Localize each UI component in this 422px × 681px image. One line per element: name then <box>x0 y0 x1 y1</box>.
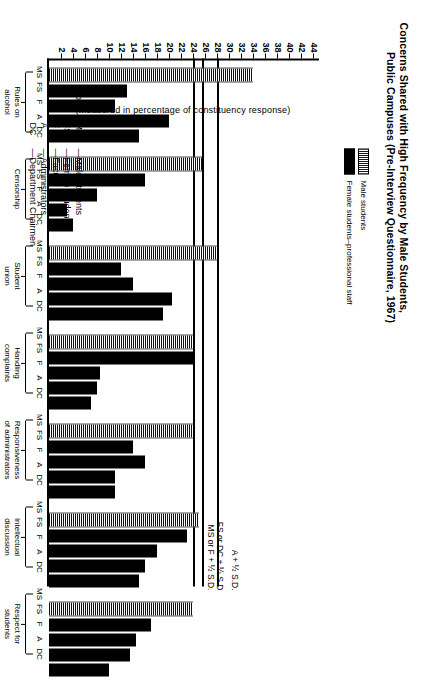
constituency-codes: MSFSFADC <box>35 239 44 312</box>
axis-tick-label: 30 <box>225 32 234 52</box>
category-label-group: MSFSFADCIntellectualdiscussion <box>3 493 44 580</box>
plot-area: (Measured in percentage of constituency … <box>47 58 319 586</box>
group-name-line: alcohol <box>3 65 13 138</box>
code-abbr: A <box>38 122 50 148</box>
axis-tick-label: 34 <box>249 32 258 52</box>
code-key-row: F—Faculty <box>50 88 62 246</box>
bar-a[interactable] <box>49 381 97 394</box>
bar-f[interactable] <box>49 455 145 468</box>
axis-tick-label: 2 <box>57 32 66 52</box>
bar-fs[interactable] <box>49 262 121 275</box>
axis-tick-label: 10 <box>105 32 114 52</box>
code-dash: — <box>40 148 50 157</box>
constituency-code: F <box>35 269 44 282</box>
bar-ms[interactable] <box>49 67 253 82</box>
group-brace <box>26 332 33 393</box>
bar-a[interactable] <box>49 648 130 661</box>
axis-tick <box>73 53 74 58</box>
bar-ms[interactable] <box>49 423 193 438</box>
code-dash: — <box>74 148 84 157</box>
bar-dc[interactable] <box>49 663 109 676</box>
bar-f[interactable] <box>49 277 133 290</box>
bar-groups <box>49 60 319 586</box>
group-brace <box>26 245 33 306</box>
constituency-code: FS <box>35 428 44 441</box>
group-name: Handlingcomplaints <box>3 326 22 399</box>
constituency-code: FS <box>35 254 44 267</box>
group-name-line: complaints <box>3 326 13 399</box>
constituency-codes: MSFSFADC <box>35 326 44 399</box>
constituency-codes: MSFSFADC <box>35 413 44 486</box>
constituency-code: MS <box>35 326 44 339</box>
axis-tick-label: 28 <box>213 32 222 52</box>
bar-ms[interactable] <box>49 245 217 260</box>
group-name-line: students <box>3 587 13 660</box>
axis-tick-label: 6 <box>81 32 90 52</box>
constituency-code: DC <box>35 647 44 660</box>
code-name: Department Chairmen <box>28 157 38 246</box>
bar-ms[interactable] <box>49 512 199 527</box>
constituency-code: A <box>35 545 44 558</box>
group-name: Studentunion <box>3 239 22 312</box>
constituency-code: F <box>35 443 44 456</box>
axis-tick <box>85 53 86 58</box>
bar-fs[interactable] <box>49 440 133 453</box>
group-name-line: discussion <box>3 500 13 573</box>
axis-tick <box>181 53 182 58</box>
code-key-heading: Code: <box>73 88 85 122</box>
constituency-code: FS <box>35 341 44 354</box>
axis-tick-label: 16 <box>141 32 150 52</box>
legend: Male students Female students–profession… <box>342 148 370 304</box>
bar-dc[interactable] <box>49 307 163 320</box>
code-dash: — <box>51 148 61 157</box>
group-name-line: of administrators <box>3 413 13 486</box>
group-name: Responsivenessof administrators <box>3 413 22 486</box>
bar-ms[interactable] <box>49 601 193 616</box>
bar-a[interactable] <box>49 470 115 483</box>
bar-fs[interactable] <box>49 618 151 631</box>
bar-f[interactable] <box>49 633 136 646</box>
axis-tick <box>265 53 266 58</box>
constituency-code: FS <box>35 515 44 528</box>
axis-tick-label: 8 <box>93 32 102 52</box>
bar-f[interactable] <box>49 544 157 557</box>
code-abbr: DC <box>27 122 39 148</box>
bar-dc[interactable] <box>49 574 139 587</box>
axis-tick <box>253 53 254 58</box>
group-name: Respect forstudents <box>3 587 22 660</box>
axis-tick <box>169 53 170 58</box>
bar-dc[interactable] <box>49 485 115 498</box>
title-line-2: Public Campuses (Pre-Interview Questionn… <box>384 22 397 352</box>
axis-tick-label: 44 <box>309 32 318 52</box>
code-key-row: DC—Department Chairmen <box>27 88 39 246</box>
bar-group <box>49 594 319 681</box>
code-dash: — <box>63 148 73 157</box>
bar-a[interactable] <box>49 559 145 572</box>
bar-a[interactable] <box>49 292 172 305</box>
bar-fs[interactable] <box>49 529 187 542</box>
group-name: Intellectualdiscussion <box>3 500 22 573</box>
group-name-line: union <box>3 239 13 312</box>
axis-tick <box>193 53 194 58</box>
axis-tick <box>229 53 230 58</box>
code-name: Administrators <box>40 157 50 215</box>
code-dash: — <box>28 148 38 157</box>
axis-tick <box>301 53 302 58</box>
title-line-1: Concerns Shared with High Frequency by M… <box>398 22 410 313</box>
constituency-code: F <box>35 356 44 369</box>
constituency-code: DC <box>35 473 44 486</box>
code-abbr: F <box>50 122 62 148</box>
bar-dc[interactable] <box>49 396 91 409</box>
constituency-code: DC <box>35 386 44 399</box>
code-abbr: FS <box>61 122 73 148</box>
bar-group <box>49 327 319 416</box>
category-label-group: MSFSFADCResponsivenessof administrators <box>3 406 44 493</box>
constituency-code: FS <box>35 602 44 615</box>
bar-ms[interactable] <box>49 334 193 349</box>
bar-group <box>49 416 319 505</box>
bar-f[interactable] <box>49 366 100 379</box>
axis-tick-label: 24 <box>189 32 198 52</box>
code-key-row: A—Administrators <box>38 88 50 246</box>
bar-fs[interactable] <box>49 351 193 364</box>
legend-swatch-male-students <box>358 148 369 174</box>
